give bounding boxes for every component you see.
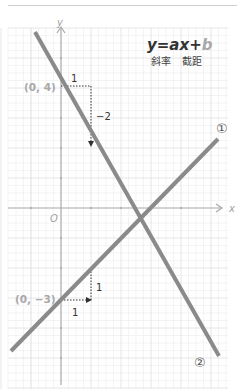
line2-rise-label: −2 [96, 111, 111, 122]
x-axis-label: x [228, 203, 235, 214]
line1-rise-label: 1 [96, 282, 102, 293]
slope-label: 斜率 [151, 55, 171, 67]
formula-b: b [202, 36, 213, 54]
point-0-neg3-label: (0, −3) [15, 293, 56, 305]
linear-function-diagram: x y O y=ax+b 斜率 截距 1 −2 1 1 (0, 4) (0, −… [0, 0, 237, 389]
line-2-label: ② [194, 355, 206, 370]
formula-plus: + [189, 36, 202, 54]
line2-step-arrow-icon [88, 141, 94, 147]
line1-run-label: 1 [72, 307, 78, 318]
formula-main: y=ax [147, 36, 190, 54]
formula: y=ax+b [147, 36, 213, 54]
line-1-label: ① [216, 121, 228, 136]
origin-label: O [50, 213, 58, 224]
intercept-label: 截距 [182, 55, 202, 67]
y-axis-label: y [56, 17, 64, 28]
line2-run-label: 1 [71, 73, 77, 84]
point-0-4-label: (0, 4) [24, 81, 56, 93]
